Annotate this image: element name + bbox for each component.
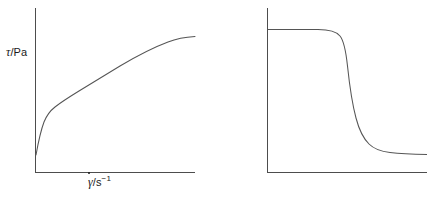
ylabel-unit-left: Pa xyxy=(14,46,28,58)
left-panel-axes xyxy=(36,8,196,173)
panel-shear-stress: τ/Pa γ/s−1 xyxy=(0,0,213,199)
panel-viscosity: η/Pa s η(0) γ/s−1 xyxy=(213,0,426,199)
y-axis-label-shear-stress: τ/Pa xyxy=(6,46,27,58)
shear-stress-plot-svg xyxy=(0,0,213,199)
shear-stress-curve xyxy=(36,37,195,156)
rheology-figure: τ/Pa γ/s−1 η/Pa s η(0) γ/s−1 xyxy=(0,0,427,199)
xlabel-exponent-left: −1 xyxy=(102,174,111,183)
gamma-glyph-left: γ xyxy=(88,175,93,189)
gamma-dot-symbol-left: γ xyxy=(88,176,93,188)
x-axis-label-shear-rate-left: γ/s−1 xyxy=(88,176,111,188)
viscosity-curve xyxy=(268,30,427,155)
right-panel-axes xyxy=(268,8,427,173)
viscosity-plot-svg xyxy=(213,0,427,199)
